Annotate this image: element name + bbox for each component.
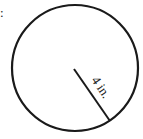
circle-outline: [12, 5, 138, 131]
prefix-colon: :: [0, 5, 4, 20]
circle-diagram: : 4 in.: [0, 0, 143, 139]
